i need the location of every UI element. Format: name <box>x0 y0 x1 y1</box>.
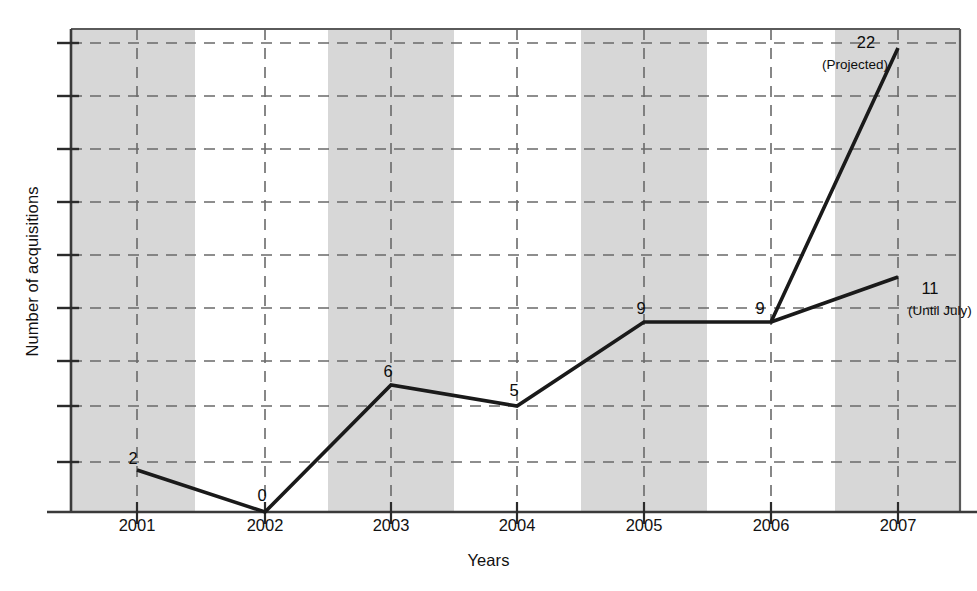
x-tick-label-2007: 2007 <box>853 516 943 535</box>
x-tick-label-2006: 2006 <box>726 516 816 535</box>
band-2005 <box>581 29 707 512</box>
data-note-2007-actual: (Until July) <box>860 303 977 318</box>
acquisitions-line-chart: Number of acquisitions Years 2001 2002 2… <box>0 0 977 591</box>
data-label-2001: 2 <box>103 449 163 468</box>
shaded-bands <box>71 29 960 512</box>
x-tick-label-2004: 2004 <box>472 516 562 535</box>
band-2003 <box>328 29 454 512</box>
x-tick-label-2003: 2003 <box>346 516 436 535</box>
data-label-2004: 5 <box>484 381 544 400</box>
x-tick-label-2005: 2005 <box>599 516 689 535</box>
data-note-2007-projected: (Projected) <box>775 57 935 72</box>
vertical-gridlines <box>137 29 898 512</box>
chart-canvas <box>0 0 977 591</box>
data-label-2005: 9 <box>611 299 671 318</box>
x-axis-title: Years <box>0 551 977 570</box>
data-label-2007-actual: 11 <box>900 279 960 298</box>
data-label-2002: 0 <box>232 486 292 505</box>
band-2007 <box>835 29 960 512</box>
data-label-2006: 9 <box>730 299 790 318</box>
y-axis-title: Number of acquisitions <box>23 142 42 402</box>
data-label-2003: 6 <box>358 362 418 381</box>
x-tick-label-2002: 2002 <box>220 516 310 535</box>
data-label-2007-projected: 22 <box>836 33 896 52</box>
x-tick-label-2001: 2001 <box>92 516 182 535</box>
band-2001 <box>71 29 195 512</box>
